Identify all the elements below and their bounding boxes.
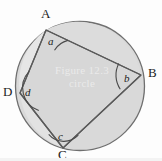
- vertex-label-D: D: [3, 85, 12, 98]
- vertex-label-B: B: [148, 66, 157, 79]
- page-edge-strip: [0, 158, 162, 161]
- angle-label-c: c: [58, 131, 63, 142]
- angle-label-d: d: [25, 87, 31, 98]
- angle-label-b: b: [124, 73, 130, 84]
- angle-label-a: a: [48, 36, 54, 47]
- geometry-figure: Figure 12.3 circle A B C D a b c d: [0, 0, 162, 161]
- figure-canvas: [0, 0, 162, 161]
- vertex-label-A: A: [41, 7, 50, 20]
